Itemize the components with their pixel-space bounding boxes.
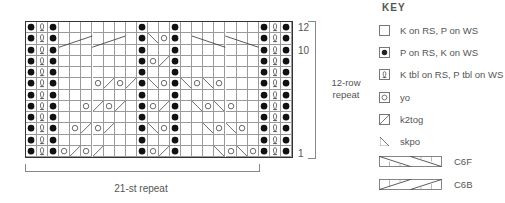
skpo-cell bbox=[237, 146, 248, 157]
purl-cell bbox=[26, 56, 37, 67]
knit-cell bbox=[81, 90, 92, 101]
purl-cell bbox=[259, 56, 270, 67]
purl-cell bbox=[137, 78, 148, 89]
knit-cell bbox=[148, 67, 159, 78]
purl-cell bbox=[48, 135, 59, 146]
knit-cell bbox=[248, 135, 259, 146]
knit-cell bbox=[148, 45, 159, 56]
purl-cell bbox=[137, 135, 148, 146]
key-item-ktbl: K tbl on RS, P tbl on WS bbox=[379, 68, 503, 80]
ktbl-cell bbox=[270, 78, 281, 89]
knit-cell bbox=[237, 135, 248, 146]
knit-cell bbox=[192, 56, 203, 67]
knit-cell bbox=[93, 22, 104, 33]
ktbl-cell bbox=[270, 112, 281, 123]
knit-cell bbox=[115, 56, 126, 67]
c6f-cable-icon bbox=[192, 33, 259, 44]
ktbl-cell bbox=[270, 67, 281, 78]
c6b-cable-icon bbox=[379, 179, 442, 190]
purl-cell bbox=[170, 45, 181, 56]
knit-cell bbox=[181, 56, 192, 67]
purl-cell bbox=[137, 56, 148, 67]
purl-cell bbox=[48, 45, 59, 56]
knit-cell bbox=[181, 33, 192, 44]
knit-cell bbox=[214, 112, 225, 123]
purl-cell bbox=[170, 78, 181, 89]
knit-cell bbox=[159, 22, 170, 33]
purl-cell bbox=[259, 146, 270, 157]
yo-cell bbox=[148, 101, 159, 112]
purl-cell bbox=[26, 112, 37, 123]
knit-cell bbox=[203, 135, 214, 146]
knit-cell bbox=[126, 33, 137, 44]
skpo-cell bbox=[214, 101, 225, 112]
purl-cell bbox=[137, 67, 148, 78]
purl-cell bbox=[48, 67, 59, 78]
knit-cell bbox=[214, 67, 225, 78]
purl-cell bbox=[281, 56, 292, 67]
purl-cell bbox=[170, 22, 181, 33]
knit-cell bbox=[70, 90, 81, 101]
knit-cell bbox=[248, 22, 259, 33]
ktbl-cell bbox=[37, 67, 48, 78]
knit-cell bbox=[104, 22, 115, 33]
purl-cell bbox=[259, 45, 270, 56]
purl-cell bbox=[281, 22, 292, 33]
ktbl-cell bbox=[37, 56, 48, 67]
purl-cell bbox=[281, 78, 292, 89]
ktbl-twist-icon bbox=[379, 69, 390, 80]
yo-cell bbox=[226, 101, 237, 112]
purl-cell bbox=[259, 101, 270, 112]
knit-cell bbox=[104, 56, 115, 67]
knit-cell bbox=[93, 112, 104, 123]
knit-cell bbox=[159, 90, 170, 101]
knit-cell bbox=[81, 56, 92, 67]
yo-cell bbox=[115, 78, 126, 89]
knit-cell bbox=[248, 56, 259, 67]
key-label: P on RS, K on WS bbox=[400, 47, 478, 58]
purl-cell bbox=[281, 90, 292, 101]
key-item-yo: yo bbox=[379, 91, 410, 103]
purl-cell bbox=[281, 101, 292, 112]
purl-cell bbox=[137, 33, 148, 44]
knit-cell bbox=[226, 135, 237, 146]
key-item-c6b: C6B bbox=[379, 179, 472, 190]
ktbl-cell bbox=[270, 135, 281, 146]
skpo-cell bbox=[148, 33, 159, 44]
k2tog-cell bbox=[104, 123, 115, 134]
knit-cell bbox=[181, 45, 192, 56]
purl-cell bbox=[48, 90, 59, 101]
knit-cell bbox=[115, 22, 126, 33]
purl-cell bbox=[26, 67, 37, 78]
k2tog-cell bbox=[126, 78, 137, 89]
purl-cell bbox=[259, 123, 270, 134]
knit-cell bbox=[159, 135, 170, 146]
knit-cell bbox=[203, 67, 214, 78]
knit-cell bbox=[115, 112, 126, 123]
knit-cell bbox=[126, 123, 137, 134]
knit-cell bbox=[81, 67, 92, 78]
knit-cell bbox=[70, 67, 81, 78]
knit-cell bbox=[226, 56, 237, 67]
key-label: yo bbox=[400, 92, 410, 103]
knit-cell bbox=[115, 123, 126, 134]
purl-cell bbox=[170, 135, 181, 146]
knit-cell bbox=[126, 22, 137, 33]
knit-cell bbox=[59, 112, 70, 123]
key-label: K tbl on RS, P tbl on WS bbox=[400, 69, 503, 80]
purl-cell bbox=[48, 112, 59, 123]
key-label: C6B bbox=[454, 179, 472, 190]
yo-cell bbox=[93, 78, 104, 89]
knit-cell bbox=[203, 90, 214, 101]
knit-cell bbox=[181, 112, 192, 123]
knit-cell bbox=[192, 112, 203, 123]
purl-cell bbox=[259, 33, 270, 44]
knit-cell bbox=[159, 45, 170, 56]
skpo-cell bbox=[203, 78, 214, 89]
yo-cell bbox=[70, 123, 81, 134]
skpo-cell bbox=[214, 146, 225, 157]
purl-cell bbox=[170, 123, 181, 134]
key-item-skpo: skpo bbox=[379, 135, 420, 147]
purl-cell bbox=[26, 135, 37, 146]
ktbl-cell bbox=[270, 56, 281, 67]
